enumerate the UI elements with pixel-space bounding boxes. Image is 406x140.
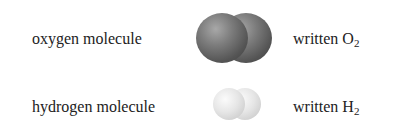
hydrogen-formula: written H2 <box>293 98 359 116</box>
oxygen-atom-left <box>196 13 248 63</box>
element-symbol: H <box>342 98 354 115</box>
written-label: written <box>293 98 342 115</box>
subscript: 2 <box>354 105 360 117</box>
hydrogen-molecule-label: hydrogen molecule <box>32 98 155 116</box>
subscript: 2 <box>354 37 360 49</box>
oxygen-formula: written O2 <box>293 30 359 48</box>
element-symbol: O <box>342 30 354 47</box>
hydrogen-atom-left <box>213 88 245 120</box>
oxygen-molecule-label: oxygen molecule <box>32 30 142 48</box>
written-label: written <box>293 30 342 47</box>
